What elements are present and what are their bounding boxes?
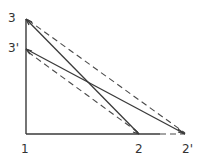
solid-line-3-to-2 <box>26 19 139 134</box>
dashed-line-3-to-2prime <box>28 20 185 133</box>
label-3: 3 <box>8 11 16 25</box>
label-3prime: 3' <box>8 41 19 55</box>
dashed-line-3prime-to-2 <box>28 52 139 133</box>
solid-line-3prime-to-2prime <box>26 49 185 134</box>
label-2prime: 2' <box>182 142 193 156</box>
arrowhead-2 <box>133 129 139 134</box>
label-1: 1 <box>21 142 29 156</box>
triangle-diagram: 3 3' 1 2 2' <box>0 0 205 161</box>
label-2: 2 <box>135 142 143 156</box>
